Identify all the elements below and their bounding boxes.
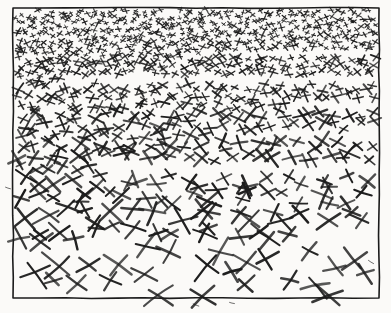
cross-stroke: [106, 28, 110, 29]
cross-stroke: [248, 99, 258, 100]
cross-stroke: [309, 46, 316, 47]
cross-stroke: [149, 19, 152, 20]
cross-stroke: [26, 17, 31, 18]
cross-stroke: [195, 60, 204, 61]
cross-stroke: [137, 104, 147, 105]
cross-stroke: [224, 11, 229, 12]
cross-stroke: [302, 20, 306, 21]
cross-stroke: [96, 49, 103, 50]
cross-stroke: [229, 11, 233, 12]
texture-drawing: [0, 0, 391, 313]
cross-stroke: [213, 14, 217, 15]
cross-stroke: [294, 14, 298, 15]
cross-stroke: [130, 45, 136, 46]
cross-stroke: [89, 228, 104, 229]
cross-stroke: [361, 45, 366, 46]
cross-stroke: [312, 35, 316, 36]
cross-stroke: [92, 83, 99, 84]
cross-stroke: [84, 55, 88, 56]
artboard: [0, 0, 391, 313]
cross-stroke: [60, 131, 73, 132]
cross-stroke: [50, 12, 55, 13]
cross-stroke: [288, 15, 293, 16]
cross-stroke: [261, 66, 267, 67]
cross-stroke: [290, 203, 308, 204]
cross-stroke: [167, 35, 172, 36]
cross-stroke: [85, 39, 91, 40]
cross-stroke: [276, 85, 284, 86]
cross-stroke: [261, 19, 266, 20]
cross-stroke: [95, 23, 101, 24]
